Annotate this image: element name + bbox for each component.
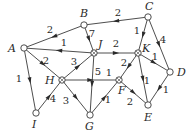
edge-weight-J-G: 5 — [95, 66, 101, 77]
node-D — [167, 69, 173, 75]
arrow-icon — [113, 51, 119, 55]
edge-weight-J-K: 2 — [113, 38, 119, 49]
node-label-F: F — [117, 84, 126, 97]
node-B — [81, 22, 87, 28]
arrow-icon — [142, 31, 146, 38]
arrow-icon — [113, 19, 120, 23]
arrow-icon — [127, 63, 132, 69]
node-label-H: H — [44, 74, 55, 87]
graph-diagram: 22712132514121143121 ABCJKDHFIGE — [0, 0, 195, 135]
node-G — [87, 112, 93, 118]
edge-weight-C-B: 2 — [115, 7, 121, 18]
node-label-G: G — [85, 120, 94, 133]
edge-weight-C-D: 4 — [160, 34, 166, 45]
edge-weight-H-J: 3 — [71, 56, 77, 67]
edge-weight-K-E: 1 — [144, 75, 150, 86]
edge-weight-K-D: 1 — [152, 51, 158, 62]
node-C — [145, 14, 151, 20]
edge-weight-B-A: 2 — [47, 24, 53, 35]
edge-weight-A-H: 2 — [43, 55, 49, 66]
node-label-J: J — [96, 38, 103, 51]
edge-weight-H-F: 1 — [106, 67, 112, 78]
edge-weight-C-K: 1 — [134, 25, 140, 36]
edge-weight-J-A: 1 — [61, 37, 67, 48]
node-A — [21, 45, 27, 51]
node-label-I: I — [31, 118, 37, 131]
edge-weight-A-I: 1 — [16, 73, 22, 84]
node-E — [145, 102, 151, 108]
edge-weight-B-J: 7 — [89, 28, 95, 39]
edge-weight-F-E: 2 — [127, 96, 133, 107]
edge-weight-K-F: 2 — [121, 57, 127, 68]
node-label-K: K — [141, 42, 151, 55]
edge-weight-H-G: 3 — [63, 95, 69, 106]
edge-weight-D-E: 1 — [163, 84, 169, 95]
edge-weight-G-F: 1 — [105, 94, 111, 105]
edge-weight-I-H: 4 — [50, 93, 56, 104]
node-label-D: D — [176, 66, 186, 79]
node-I — [33, 110, 39, 116]
node-label-E: E — [143, 111, 152, 124]
arrow-icon — [157, 85, 162, 91]
node-label-B: B — [79, 7, 88, 20]
node-label-A: A — [7, 42, 16, 55]
node-label-C: C — [145, 0, 154, 13]
